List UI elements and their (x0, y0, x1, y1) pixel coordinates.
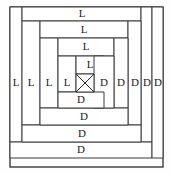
label-round2-top: L (83, 40, 90, 52)
label-round2-left: L (46, 76, 53, 88)
label-round2-right: D (117, 76, 125, 88)
label-round4-right: D (143, 76, 151, 88)
label-round3-top: L (81, 23, 88, 35)
block-svg-canvas: L L L L L L L L D D D D D D D D D (0, 0, 172, 174)
center-square-group (76, 74, 94, 92)
label-round3-bottom: D (78, 127, 86, 139)
log-round3-right (128, 21, 141, 125)
log-round3-left (22, 21, 40, 125)
label-extra-right: D (154, 76, 162, 88)
log-cabin-block-diagram: L L L L L L L L D D D D D D D D D (0, 0, 172, 174)
label-round1-left: L (64, 76, 71, 88)
log-round4-right (141, 7, 152, 142)
label-round3-left: L (28, 76, 35, 88)
label-round1-bottom: D (77, 93, 85, 105)
log-round2-right (114, 38, 128, 108)
label-round1-top: L (87, 58, 94, 70)
label-round4-top: L (79, 7, 86, 19)
log-round4-left (10, 7, 22, 142)
log-round2-left (40, 38, 58, 108)
label-round3-right: D (131, 76, 139, 88)
label-round1-right: D (100, 76, 108, 88)
label-round4-left: L (13, 76, 20, 88)
label-round2-bottom: D (80, 110, 88, 122)
label-round4-bottom: D (77, 143, 85, 155)
